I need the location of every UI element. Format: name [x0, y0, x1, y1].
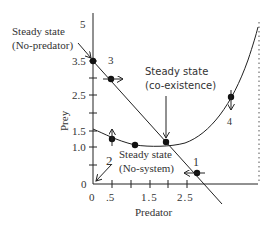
y-tick-1-0: 1.0 — [72, 141, 86, 153]
y-tick-0: 0 — [81, 178, 87, 190]
ss-no-system-label-1: Steady state — [119, 148, 172, 160]
y-tick-5: 5 — [80, 18, 86, 30]
steady-state-no-predator-point — [90, 58, 96, 64]
ss-coexistence-label-1: Steady state — [145, 66, 208, 77]
ss-coexistence-label-2: (co-existence) — [145, 80, 216, 91]
y-axis-title: Prey — [58, 110, 70, 131]
point-label-4: 4 — [227, 116, 232, 127]
x-tick-2-5: 2.5 — [177, 191, 194, 203]
x-tick-1-5: 1.5 — [141, 191, 158, 203]
ss-no-predator-label-2: (No-predator) — [12, 39, 73, 52]
ss-no-predator-label-1: Steady state — [12, 25, 65, 37]
x-axis-title: Predator — [135, 206, 173, 218]
point-label-3: 3 — [108, 54, 114, 66]
point-label-1: 1 — [193, 155, 199, 169]
steady-state-coexistence-point — [163, 139, 169, 145]
x-tick-0: 0 — [89, 191, 95, 203]
point-label-2: 2 — [106, 153, 113, 168]
y-tick-3-5: 3.5 — [72, 55, 86, 67]
ss-no-system-label-2: (No-system) — [119, 162, 174, 175]
y-tick-2-5: 2.5 — [72, 89, 86, 101]
y-tick-1-5: 1.5 — [72, 125, 86, 137]
predator-prey-phase-diagram: 5 3.5 2.5 1.5 1.0 0 0 .5 1.5 2.5 Predato… — [0, 0, 272, 226]
x-tick-0-5: .5 — [106, 191, 115, 203]
